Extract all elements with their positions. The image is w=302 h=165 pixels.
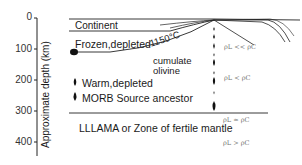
density-label-3: ρL ≃ ρC — [223, 117, 250, 124]
y-tick-300: 300 — [2, 106, 32, 116]
warm-depleted-label: Warm,depleted — [82, 78, 153, 89]
olivine-label: olivine — [153, 66, 180, 76]
rising-melt-drops — [213, 27, 216, 111]
density-label-1: ρL << ρC — [224, 44, 256, 51]
y-tick-0: 0 — [2, 12, 32, 22]
frozen-depleted-label: Frozen,depleted — [75, 39, 151, 50]
y-tick-100: 100 — [2, 44, 32, 54]
lllama-label: LLLAMA or Zone of fertile mantle — [79, 123, 233, 134]
y-tick-200: 200 — [2, 75, 32, 85]
density-label-2: ρL < ρC — [224, 75, 251, 82]
y-tick-400: 400 — [2, 137, 32, 147]
continent-label: Continent — [75, 21, 118, 31]
morb-source-label: MORB Source ancestor — [82, 93, 193, 104]
morb-drop-icon — [74, 92, 77, 101]
warm-depleted-drop-icon — [74, 78, 77, 86]
density-label-4: ρL > ρC — [223, 140, 250, 147]
y-axis-label: Approximate depth (km) — [40, 41, 51, 148]
